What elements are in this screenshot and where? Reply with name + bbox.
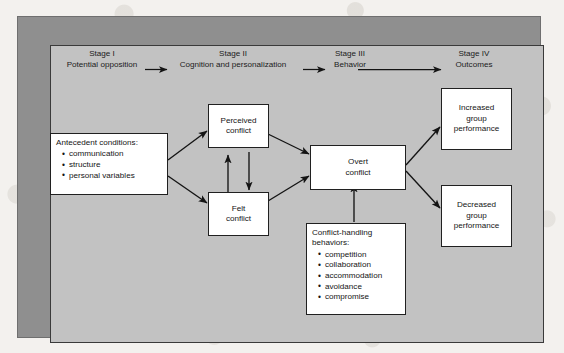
arrow-antecedent-to-felt bbox=[168, 176, 207, 203]
list-item: accommodation bbox=[318, 271, 401, 282]
decreased-performance-label: Decreased group performance bbox=[454, 200, 499, 231]
list-item: structure bbox=[62, 160, 163, 171]
antecedent-item-list: communication structure personal variabl… bbox=[56, 149, 163, 181]
list-item: personal variables bbox=[62, 171, 163, 182]
arrow-antecedent-to-perceived bbox=[168, 131, 207, 160]
overt-conflict-label: Overt conflict bbox=[345, 157, 370, 178]
arrow-overt-to-increased bbox=[406, 127, 440, 165]
node-overt-conflict: Overt conflict bbox=[310, 145, 406, 190]
felt-conflict-label: Felt conflict bbox=[226, 204, 251, 225]
node-antecedent-conditions: Antecedent conditions: communication str… bbox=[50, 133, 168, 195]
node-decreased-group-performance: Decreased group performance bbox=[441, 185, 512, 247]
node-conflict-handling-behaviors: Conflict-handling behaviors: competition… bbox=[306, 223, 406, 315]
perceived-conflict-label: Perceived conflict bbox=[221, 116, 257, 137]
list-item: competition bbox=[318, 250, 401, 261]
list-item: collaboration bbox=[318, 260, 401, 271]
node-felt-conflict: Felt conflict bbox=[208, 192, 269, 236]
behaviors-item-list: competition collaboration accommodation … bbox=[312, 250, 401, 303]
behaviors-title-line1: Conflict-handling bbox=[312, 228, 401, 238]
arrow-overt-to-decreased bbox=[406, 171, 440, 208]
arrow-felt-to-overt bbox=[268, 176, 309, 201]
list-item: avoidance bbox=[318, 282, 401, 293]
behaviors-title-line2: behaviors: bbox=[312, 238, 401, 248]
list-item: communication bbox=[62, 149, 163, 160]
list-item: compromise bbox=[318, 292, 401, 303]
increased-performance-label: Increased group performance bbox=[454, 103, 499, 134]
antecedent-title: Antecedent conditions: bbox=[56, 138, 163, 148]
node-increased-group-performance: Increased group performance bbox=[441, 88, 512, 150]
arrow-perceived-to-overt bbox=[268, 134, 309, 154]
node-perceived-conflict: Perceived conflict bbox=[208, 104, 269, 148]
